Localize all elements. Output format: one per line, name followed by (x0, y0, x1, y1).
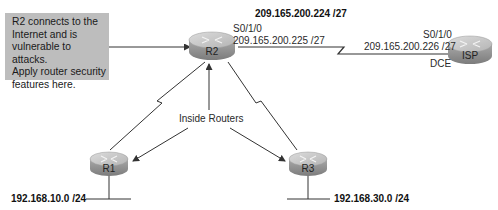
isp-interface-name: S0/1/0 (423, 29, 452, 40)
arrow-to-r3 (230, 128, 285, 161)
router-r3-label: R3 (302, 163, 315, 174)
router-r1[interactable]: R1 (90, 152, 128, 176)
router-r3[interactable]: R3 (289, 152, 327, 176)
serial-link-r2-r1 (110, 62, 205, 150)
arrow-to-r1 (133, 128, 188, 161)
r3-lan-network-label: 192.168.30.0 /24 (334, 193, 409, 204)
note-line: R2 connects to the (12, 16, 109, 29)
note-line: vulnerable to attacks. (12, 41, 109, 66)
r2-interface-ip: 209.165.200.225 /27 (233, 35, 325, 46)
router-r2-label: R2 (206, 46, 219, 57)
router-r1-label: R1 (103, 163, 116, 174)
inside-routers-label: Inside Routers (179, 113, 243, 124)
security-note: R2 connects to the Internet and is vulne… (5, 13, 109, 80)
router-r2[interactable]: R2 (189, 32, 235, 60)
note-line: Internet and is (12, 29, 109, 42)
router-isp-label: ISP (462, 50, 478, 61)
isp-dce-label: DCE (430, 58, 451, 69)
note-line: features here. (12, 79, 109, 92)
isp-interface-ip: 209.165.200.226 /27 (364, 41, 456, 52)
note-line: Apply router security (12, 66, 109, 79)
r2-interface-name: S0/1/0 (233, 23, 262, 34)
wan-network-label: 209.165.200.224 /27 (255, 8, 347, 19)
r1-lan-network-label: 192.168.10.0 /24 (11, 193, 86, 204)
serial-link-r2-r3 (228, 62, 297, 150)
